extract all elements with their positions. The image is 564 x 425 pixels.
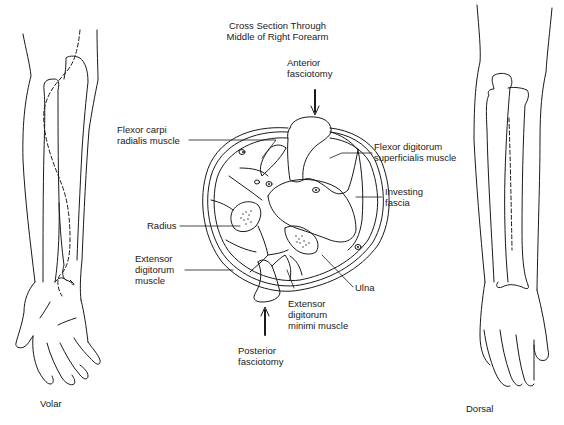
label-investing-fascia: Investing fascia [385,186,423,208]
label-line: fasciotomy [238,356,283,367]
label-extensor-digitorum-minimi: Extensor digitorum minimi muscle [288,298,348,331]
label-line: minimi muscle [288,320,348,331]
label-line: fascia [385,197,423,208]
label-line: digitorum [288,309,348,320]
label-line: Posterior [238,345,283,356]
label-line: radialis muscle [117,135,180,146]
label-extensor-digitorum: Extensor digitorum muscle [135,253,174,286]
label-posterior-fasciotomy: Posterior fasciotomy [238,345,283,367]
label-line: fasciotomy [287,68,332,79]
label-radius: Radius [147,220,177,231]
label-ulna: Ulna [355,282,375,293]
label-volar-view: Volar [40,398,62,409]
cross-section-drawing [203,117,389,302]
label-line: muscle [135,275,174,286]
label-line: digitorum [135,264,174,275]
diagram-title: Cross Section Through Middle of Right Fo… [215,20,340,42]
label-line: Extensor [288,298,348,309]
title-line-1: Cross Section Through [215,20,340,31]
label-flexor-digitorum-superficialis: Flexor digitorum superficialis muscle [374,141,456,163]
posterior-arrow [261,307,269,335]
anterior-arrow [311,90,319,115]
label-line: Investing [385,186,423,197]
label-dorsal-view: Dorsal [466,403,493,414]
volar-arm-drawing [16,30,100,385]
label-line: superficialis muscle [374,152,456,163]
label-line: Anterior [287,57,332,68]
label-anterior-fasciotomy: Anterior fasciotomy [287,57,332,79]
label-line: Flexor carpi [117,124,180,135]
label-line: Flexor digitorum [374,141,456,152]
dorsal-arm-drawing [474,5,552,386]
label-flexor-carpi-radialis: Flexor carpi radialis muscle [117,124,180,146]
title-line-2: Middle of Right Forearm [215,31,340,42]
label-line: Extensor [135,253,174,264]
